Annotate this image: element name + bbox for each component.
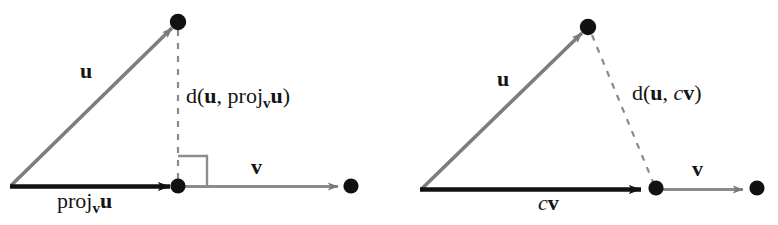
vector-u-right: [421, 33, 582, 190]
left-diagram-group: [10, 14, 359, 194]
label-vector-u-left: u: [80, 60, 92, 82]
endpoint-dot-cv-right: [648, 180, 663, 195]
right-diagram-group: [420, 19, 765, 196]
vector-projection-figure: u v projvu d(u, projvu) u v cv d(u, cv): [0, 0, 778, 225]
endpoint-dot-v-left: [343, 178, 358, 193]
label-distance-left: d(u, projvu): [186, 85, 290, 111]
label-vector-v-left: v: [251, 156, 262, 178]
label-distance-right: d(u, cv): [632, 82, 702, 104]
endpoint-dot-u-right: [580, 19, 596, 35]
label-vector-u-right: u: [497, 68, 509, 90]
endpoint-dot-v-right: [749, 180, 764, 195]
label-cv-right: cv: [538, 192, 559, 214]
vector-u-left: [11, 28, 172, 186]
endpoint-dot-projection-left: [170, 178, 185, 193]
endpoint-dot-u-left: [170, 14, 186, 30]
label-projection-left: projvu: [57, 190, 112, 216]
diagram-vector-graphics: [0, 0, 778, 225]
dashed-distance-right: [592, 35, 653, 182]
label-vector-v-right: v: [692, 158, 703, 180]
